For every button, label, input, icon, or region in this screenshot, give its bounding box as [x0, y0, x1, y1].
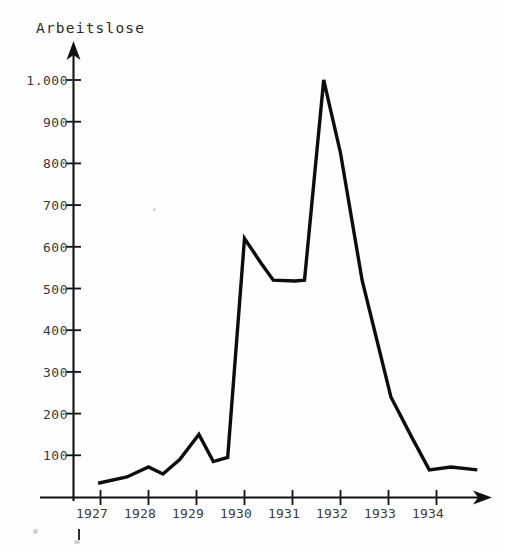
ytick-label-800: 800	[12, 156, 68, 171]
xtick-label-1930: 1930	[220, 506, 252, 521]
chart-plot-area	[0, 0, 505, 546]
scan-edge-mark	[78, 529, 80, 540]
xtick-label-1933: 1933	[364, 506, 396, 521]
xtick-label-1927: 1927	[76, 506, 108, 521]
xtick-label-1929: 1929	[172, 506, 204, 521]
xtick-label-1931: 1931	[268, 506, 300, 521]
scan-speck	[153, 208, 156, 211]
ytick-label-400: 400	[12, 323, 68, 338]
ytick-label-500: 500	[12, 281, 68, 296]
xtick-label-1934: 1934	[412, 506, 444, 521]
chart-page: Arbeitslose	[0, 0, 505, 546]
ytick-label-200: 200	[12, 406, 68, 421]
xtick-label-1928: 1928	[124, 506, 156, 521]
ytick-label-1000: 1.000	[4, 73, 68, 88]
ytick-label-300: 300	[12, 364, 68, 379]
scan-speck	[74, 540, 80, 544]
ytick-label-600: 600	[12, 239, 68, 254]
ytick-label-900: 900	[12, 114, 68, 129]
ytick-label-100: 100	[12, 448, 68, 463]
x-axis	[40, 491, 492, 505]
y-axis	[67, 41, 81, 501]
xtick-label-1932: 1932	[316, 506, 348, 521]
ytick-label-700: 700	[12, 198, 68, 213]
data-series-line	[98, 80, 477, 483]
scan-speck	[33, 529, 38, 534]
